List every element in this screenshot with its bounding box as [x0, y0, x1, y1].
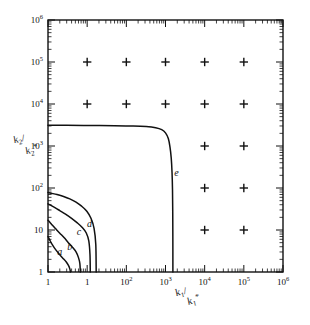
curve-label-e: e	[174, 167, 179, 178]
x-axis-tick-label: 104	[199, 275, 212, 287]
plus-marker	[200, 226, 208, 234]
plus-marker	[83, 100, 91, 108]
plus-marker	[83, 58, 91, 66]
plus-marker	[200, 184, 208, 192]
y-axis-tick-label: 1	[39, 267, 44, 277]
x-axis-tick-label: 106	[277, 275, 290, 287]
y-axis-title: k2/ k2*	[12, 130, 39, 160]
x-axis-tick-label: 103	[159, 275, 171, 287]
contour-curve-c	[48, 204, 90, 272]
curve-label-b: b	[67, 241, 72, 252]
x-axis-tick-label: 105	[238, 275, 250, 287]
y-axis-tick-label: 10	[34, 225, 44, 235]
log-log-contour-figure: 11102103104105106 110102103104105106 abc…	[0, 0, 310, 325]
plus-marker	[240, 58, 248, 66]
contour-curve-d	[48, 193, 96, 272]
plot-canvas: 11102103104105106 110102103104105106 abc…	[0, 0, 310, 325]
curve-label-a: a	[57, 246, 62, 257]
curve-label-layer: abcde	[57, 167, 179, 256]
plus-marker	[200, 58, 208, 66]
x-axis-tick-label: 102	[120, 275, 132, 287]
plus-marker	[200, 100, 208, 108]
plus-marker	[240, 184, 248, 192]
plus-marker	[200, 142, 208, 150]
svg-text:k1*: k1*	[186, 292, 201, 309]
plus-marker	[240, 142, 248, 150]
plus-marker	[122, 100, 130, 108]
x-axis-title: k1/ k1*	[174, 283, 201, 312]
x-axis-tick-label: 1	[85, 277, 90, 287]
x-axis-tick-label-layer: 11102103104105106	[46, 275, 290, 287]
plus-marker	[240, 226, 248, 234]
plus-marker	[161, 100, 169, 108]
x-axis-tick-label: 1	[46, 277, 51, 287]
y-axis-tick-label: 105	[31, 55, 43, 67]
y-axis-tick-label: 106	[31, 13, 44, 25]
curve-label-c: c	[77, 226, 82, 237]
y-axis-tick-label: 104	[31, 97, 44, 109]
x-axis-title-denominator-star: *	[194, 292, 200, 302]
y-axis-tick-label: 102	[31, 181, 43, 193]
plus-marker	[240, 100, 248, 108]
plus-marker-layer	[83, 58, 248, 234]
plus-marker	[122, 58, 130, 66]
plus-marker	[161, 58, 169, 66]
